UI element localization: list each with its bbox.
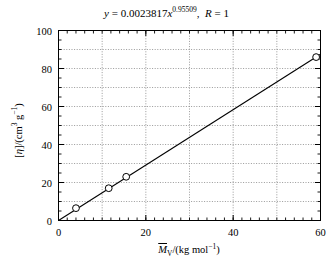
- x-tick-label: 60: [315, 227, 326, 238]
- fit-line: [59, 54, 321, 220]
- ylabel-eta-symbol: η: [13, 149, 24, 154]
- data-point-marker: [105, 185, 112, 192]
- ylabel-close-paren: ): [13, 103, 24, 107]
- xlabel-m-symbol: M: [158, 244, 167, 255]
- chart-figure: y = 0.0023817x0.95509, R = 1 02040608010…: [0, 0, 333, 269]
- ylabel-slash-unit: /(cm: [13, 126, 24, 145]
- y-tick-label: 0: [8, 215, 52, 226]
- gridlines: [59, 31, 321, 221]
- ylabel-g-exponent: −1: [10, 107, 19, 115]
- ylabel-bracket-close: ]: [13, 146, 24, 150]
- y-tick-label: 100: [8, 25, 52, 36]
- xlabel-close-paren: ): [216, 244, 220, 255]
- x-tick-label: 20: [141, 227, 152, 238]
- ylabel-bracket-open: [: [13, 154, 24, 158]
- x-tick-label: 40: [228, 227, 239, 238]
- ylabel-cm-exponent: 3: [10, 123, 19, 127]
- x-axis-label: MV/(kg mol−1): [58, 244, 320, 255]
- data-point-marker: [313, 54, 320, 61]
- y-axis-label: [η]/(cm3 g−1): [13, 61, 24, 201]
- x-tick-label: 0: [56, 227, 61, 238]
- data-point-marker: [73, 205, 80, 212]
- plot-area: [0, 0, 333, 269]
- ylabel-g-symbol: g: [13, 115, 24, 123]
- xlabel-slash-unit: /(kg mol: [172, 244, 208, 255]
- data-point-marker: [123, 173, 130, 180]
